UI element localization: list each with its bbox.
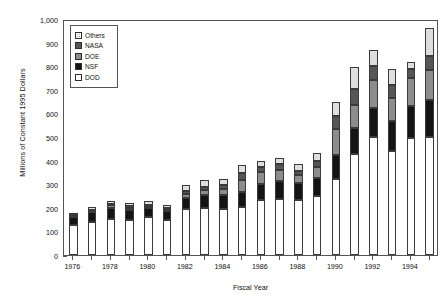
bar-segment-doe <box>332 129 341 155</box>
bar-segment-dod <box>294 200 303 255</box>
y-axis-tick-label: 400 <box>0 157 63 166</box>
bar-segment-dod <box>238 207 247 255</box>
legend-item-label: NSF <box>85 63 98 70</box>
bar-segment-nasa <box>238 173 247 180</box>
bar-segment-dod <box>163 220 172 255</box>
bar-segment-dod <box>332 179 341 255</box>
x-axis-tick-label: 1982 <box>177 262 193 271</box>
bar-1991 <box>350 67 359 255</box>
x-axis-tick-label: 1984 <box>214 262 230 271</box>
x-axis-tick-mark <box>72 256 73 260</box>
bar-segment-others <box>257 161 266 167</box>
bar-segment-others <box>163 205 172 208</box>
bar-segment-dod <box>182 209 191 255</box>
stacked-bar-chart: Millions of Constant 1995 Dollars 010020… <box>0 0 442 299</box>
bar-segment-others <box>425 28 434 56</box>
bar-1988 <box>294 164 303 255</box>
bar-segment-others <box>294 164 303 170</box>
bar-segment-nsf <box>369 108 378 137</box>
bar-1981 <box>163 205 172 256</box>
bar-segment-nsf <box>125 210 134 220</box>
bar-segment-dod <box>200 208 209 255</box>
bar-1979 <box>125 203 134 255</box>
y-axis-tick-label: 200 <box>0 204 63 213</box>
bar-1987 <box>275 158 284 255</box>
bar-segment-others <box>144 201 153 205</box>
bar-segment-others <box>182 185 191 191</box>
bar-segment-dod <box>88 222 97 255</box>
x-axis-tick-mark <box>279 256 280 260</box>
y-axis-tick-label: 500 <box>0 134 63 143</box>
bar-segment-dod <box>219 209 228 255</box>
x-axis-tick-mark <box>166 256 167 260</box>
x-axis-tick-mark <box>372 256 373 260</box>
bar-segment-nasa <box>257 167 266 172</box>
legend-item-dod: DOD <box>75 72 113 83</box>
bar-segment-nasa <box>182 191 191 194</box>
bar-1986 <box>257 161 266 255</box>
bar-segment-doe <box>257 172 266 183</box>
legend-item-nsf: NSF <box>75 62 113 73</box>
x-axis-tick-label: 1990 <box>327 262 343 271</box>
bar-segment-doe <box>350 105 359 128</box>
bar-segment-doe <box>238 180 247 192</box>
legend-swatch-icon <box>75 53 82 60</box>
x-axis-tick-mark <box>354 256 355 260</box>
bar-segment-nsf <box>407 106 416 138</box>
x-axis-tick-mark <box>297 256 298 260</box>
x-axis-tick-mark <box>91 256 92 260</box>
bar-segment-others <box>369 50 378 66</box>
x-axis-tick-mark <box>185 256 186 260</box>
bar-segment-doe <box>125 208 134 210</box>
bar-1976 <box>69 213 78 255</box>
bar-segment-nsf <box>332 155 341 180</box>
legend-item-label: DOE <box>85 53 99 60</box>
bar-segment-nasa <box>219 185 228 189</box>
y-axis-tick-label: 1,000 <box>0 16 63 25</box>
legend-item-nasa: NASA <box>75 41 113 52</box>
y-axis-tick-label: 800 <box>0 63 63 72</box>
legend-item-label: DOD <box>85 74 100 81</box>
bar-segment-others <box>200 180 209 186</box>
bar-segment-others <box>88 207 97 209</box>
x-axis-tick-mark <box>391 256 392 260</box>
bar-segment-nasa <box>407 69 416 78</box>
x-axis-tick-label: 1980 <box>139 262 155 271</box>
x-axis-tick-mark <box>316 256 317 260</box>
bar-segment-nsf <box>257 184 266 201</box>
bar-segment-dod <box>107 219 116 255</box>
bar-segment-others <box>125 203 134 206</box>
chart-legend: OthersNASADOENSFDOD <box>70 25 118 88</box>
y-axis-tick-label: 300 <box>0 181 63 190</box>
bar-segment-nsf <box>238 192 247 207</box>
bar-1978 <box>107 201 116 255</box>
bar-segment-doe <box>200 190 209 195</box>
bar-segment-nasa <box>369 66 378 80</box>
bar-segment-nsf <box>144 208 153 217</box>
x-axis-tick-label: 1994 <box>402 262 418 271</box>
bar-1995 <box>425 28 434 255</box>
bar-series-container <box>64 21 437 255</box>
bar-segment-nasa <box>332 116 341 129</box>
bar-segment-nsf <box>219 195 228 209</box>
x-axis-title: Fiscal Year <box>63 283 438 292</box>
y-axis-tick-label: 600 <box>0 110 63 119</box>
bar-segment-doe <box>144 206 153 208</box>
bar-1980 <box>144 201 153 255</box>
x-axis-tick-label: 1986 <box>252 262 268 271</box>
x-axis-tick-label: 1978 <box>102 262 118 271</box>
x-axis-tick-mark <box>204 256 205 260</box>
bar-segment-nsf <box>313 178 322 196</box>
bar-segment-dod <box>425 137 434 255</box>
bar-segment-others <box>219 179 228 185</box>
x-axis-tick-mark <box>147 256 148 260</box>
y-axis-tick-label: 900 <box>0 39 63 48</box>
legend-swatch-icon <box>75 74 82 81</box>
legend-swatch-icon <box>75 63 82 70</box>
x-axis-tick-mark <box>241 256 242 260</box>
bar-segment-others <box>275 158 284 164</box>
bar-segment-dod <box>125 220 134 255</box>
bar-segment-dod <box>407 138 416 255</box>
bar-1994 <box>407 61 416 255</box>
bar-segment-nasa <box>294 171 303 175</box>
